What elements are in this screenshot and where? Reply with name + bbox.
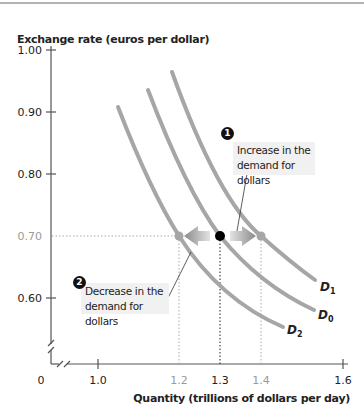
point-increase bbox=[257, 232, 266, 241]
x-tick-label-highlight: 1.4 bbox=[252, 374, 270, 387]
y-tick-label: 0.90 bbox=[18, 106, 43, 119]
point-equilibrium bbox=[215, 231, 225, 241]
annotation-2-badge: 2 bbox=[73, 276, 86, 289]
demand-shift-chart: Exchange rate (euros per dollar) 1.00 0.… bbox=[0, 0, 364, 415]
y-tick-label: 0.80 bbox=[18, 168, 43, 181]
curve-label-d1: D1 bbox=[320, 280, 336, 296]
x-tick-label-highlight: 1.2 bbox=[170, 374, 188, 387]
shift-left-arrow-icon bbox=[184, 226, 210, 246]
annotation-increase-demand: Increase in the demand for dollars bbox=[233, 142, 315, 175]
y-tick-label: 1.00 bbox=[18, 44, 43, 57]
annotation-1-line1: Increase in the bbox=[237, 143, 312, 158]
y-axis-label: Exchange rate (euros per dollar) bbox=[17, 33, 210, 46]
y-tick-label: 0.60 bbox=[18, 292, 43, 305]
x-tick-label: 1.0 bbox=[89, 374, 107, 387]
annotation-1-line2: demand for dollars bbox=[237, 158, 312, 188]
annotation-2-line2: demand for dollars bbox=[85, 299, 166, 329]
annotation-decrease-demand: Decrease in the demand for dollars bbox=[81, 283, 169, 314]
curve-label-d2: D2 bbox=[287, 323, 303, 339]
x-axis-label: Quantity (trillions of dollars per day) bbox=[133, 392, 350, 405]
x-tick-label: 1.6 bbox=[334, 374, 352, 387]
annotation-2-line1: Decrease in the bbox=[85, 284, 166, 299]
y-tick-label-highlight: 0.70 bbox=[18, 230, 43, 243]
point-decrease bbox=[175, 232, 184, 241]
annotation-1-badge: 1 bbox=[221, 127, 234, 140]
x-origin-label: 0 bbox=[38, 374, 45, 387]
curve-label-d0: D0 bbox=[318, 308, 334, 324]
x-tick-label: 1.3 bbox=[211, 374, 229, 387]
